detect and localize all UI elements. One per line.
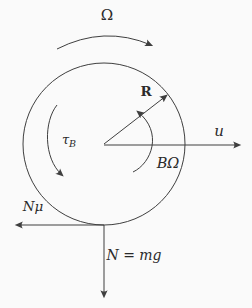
torque-arc-arrow — [47, 105, 62, 175]
torque-subscript: B — [69, 138, 76, 149]
friction-label: Nμ — [23, 200, 44, 214]
precession-label: BΩ — [157, 156, 180, 171]
omega-rotation-arrow — [57, 36, 151, 49]
physics-diagram: Ω R u τB BΩ Nμ N = mg — [0, 0, 252, 308]
radius-label: R — [140, 85, 151, 99]
normal-force-label: N = mg — [106, 248, 161, 262]
torque-label: τB — [62, 133, 76, 146]
precession-arc-arrow — [133, 112, 153, 172]
velocity-label: u — [214, 124, 224, 139]
angular-velocity-label: Ω — [101, 8, 113, 23]
radius-arrow — [104, 96, 166, 144]
